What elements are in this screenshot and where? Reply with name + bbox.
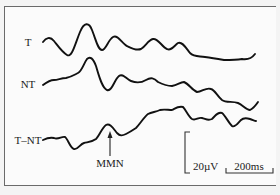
erp-waveform-chart: T NT T–NT MMN 20µV 200ms [0, 0, 280, 195]
trace-nt [43, 58, 258, 110]
mmn-annotation: MMN [96, 157, 124, 169]
trace-t-nt [43, 107, 256, 149]
label-t: T [25, 36, 32, 48]
mmn-arrow-icon [108, 131, 113, 156]
label-nt: NT [21, 78, 36, 90]
trace-t [43, 24, 255, 60]
amplitude-scale-label: 20µV [193, 160, 218, 172]
time-scale-label: 200ms [234, 160, 263, 172]
label-t-nt: T–NT [15, 134, 42, 146]
amplitude-scale-bar [185, 132, 190, 173]
